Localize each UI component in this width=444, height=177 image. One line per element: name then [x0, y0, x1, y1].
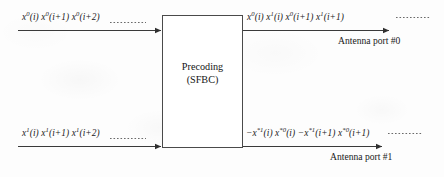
antenna-port-1-caption: Antenna port #1 [330, 152, 392, 162]
output-label-port-1: −x*1(i) x*0(i) −x*1(i+1) x*0(i+1) [246, 129, 369, 138]
sfbc-precoding-diagram: Precoding (SFBC) x0(i) x0(i+1) x0(i+2) x… [0, 0, 444, 177]
precoding-block-title: Precoding [163, 61, 243, 74]
precoding-block-subtitle: (SFBC) [163, 74, 243, 87]
antenna-port-0-caption: Antenna port #0 [338, 36, 400, 46]
input-label-layer-1: x1(i) x1(i+1) x1(i+2) [22, 129, 100, 138]
output-label-port-0: x0(i) x1(i) x0(i+1) x1(i+1) [247, 13, 344, 22]
input-label-layer-0: x0(i) x0(i+1) x0(i+2) [22, 13, 100, 22]
precoding-block-label: Precoding (SFBC) [163, 61, 243, 87]
